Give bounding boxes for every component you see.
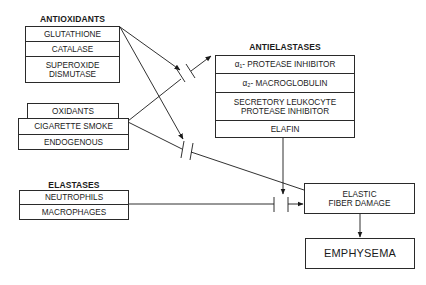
oxidants-title-box: OXIDANTS	[27, 103, 119, 119]
oxidants-title: OXIDANTS	[28, 104, 118, 118]
antioxidants-box: GLUTATHIONE CATALASE SUPEROXIDE DISMUTAS…	[25, 26, 120, 83]
emphysema-label: EMPHYSEMA	[306, 239, 414, 268]
antielastases-box: α₁- PROTEASE INHIBITOR α₂- MACROGLOBULIN…	[215, 55, 355, 138]
antielastase-alpha2-macroglobulin: α₂- MACROGLOBULIN	[216, 74, 354, 93]
antioxidant-arrow-2	[120, 27, 183, 139]
antioxidant-arrow-1	[120, 27, 180, 70]
elastases-title: ELASTASES	[19, 180, 129, 190]
antielastase-slpi: SECRETORY LEUKOCYTE PROTEASE INHIBITOR	[216, 93, 354, 121]
emphysema-box: EMPHYSEMA	[305, 238, 415, 269]
elastic-fiber-damage-label: ELASTIC FIBER DAMAGE	[305, 184, 414, 213]
antioxidant-superoxide-dismutase: SUPEROXIDE DISMUTASE	[26, 57, 119, 82]
elastic-fiber-damage-box: ELASTIC FIBER DAMAGE	[304, 183, 415, 214]
elastase-neutrophils: NEUTROPHILS	[20, 191, 128, 205]
oxidant-cigarette-smoke: CIGARETTE SMOKE	[19, 119, 128, 135]
oxidant-endogenous: ENDOGENOUS	[19, 135, 128, 149]
antielastase-elafin: ELAFIN	[216, 121, 354, 137]
antioxidant-glutathione: GLUTATHIONE	[26, 27, 119, 42]
antielastases-title: ANTIELASTASES	[215, 42, 355, 52]
oxidants-box: CIGARETTE SMOKE ENDOGENOUS	[18, 118, 129, 150]
antioxidants-title: ANTIOXIDANTS	[25, 14, 120, 24]
antielastase-alpha1-protease-inhibitor: α₁- PROTEASE INHIBITOR	[216, 56, 354, 74]
antioxidant-catalase: CATALASE	[26, 42, 119, 57]
elastases-box: NEUTROPHILS MACROPHAGES	[19, 190, 129, 220]
elastase-macrophages: MACROPHAGES	[20, 205, 128, 219]
